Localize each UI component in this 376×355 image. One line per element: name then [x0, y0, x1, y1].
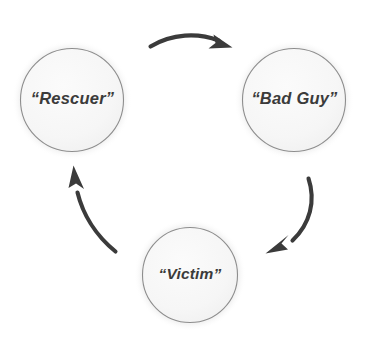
arrow-rescuer-to-bad-guy: [151, 35, 233, 49]
arrow-victim-to-rescuer-shaft: [78, 193, 116, 252]
node-rescuer-circle: [21, 49, 124, 152]
arrow-victim-to-rescuer-head: [69, 166, 85, 190]
diagram-canvas: “Rescuer” “Bad Guy” “Victim”: [0, 0, 376, 355]
node-bad-guy-circle: [243, 49, 346, 152]
node-bad-guy[interactable]: [234, 40, 354, 160]
arrow-bad-guy-to-victim: [266, 179, 312, 254]
node-victim[interactable]: [134, 219, 246, 331]
diagram-graphics: [0, 0, 376, 355]
arrow-victim-to-rescuer: [69, 166, 116, 252]
arrow-rescuer-to-bad-guy-shaft: [151, 35, 219, 46]
arrow-bad-guy-to-victim-head: [266, 235, 289, 254]
arrow-bad-guy-to-victim-shaft: [293, 179, 312, 241]
node-victim-circle: [143, 228, 238, 323]
node-rescuer[interactable]: [12, 40, 132, 160]
